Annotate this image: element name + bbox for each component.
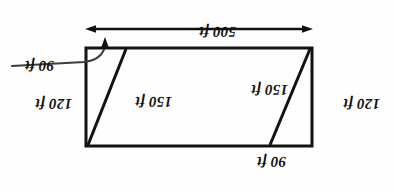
label-inner-150ft-left: 150 ft [251, 81, 288, 96]
label-left-120ft: 120 ft [343, 95, 380, 110]
geometry-figure: 90 ft 120 ft 150 ft 150 ft 120 ft 90 ft … [0, 0, 394, 192]
diagonal-right-line [88, 49, 126, 145]
leader-arrowhead [101, 37, 110, 49]
label-bottom-500ft: 500 ft [199, 23, 236, 38]
dimension-arrowhead-right [85, 25, 96, 33]
dimension-arrowhead-left [302, 25, 313, 33]
label-inner-150ft-right: 150 ft [135, 93, 172, 108]
label-top-90ft: 90 ft [257, 153, 286, 168]
label-right-120ft: 120 ft [35, 95, 72, 110]
rotated-figure-group: 90 ft 120 ft 150 ft 150 ft 120 ft 90 ft … [0, 0, 394, 192]
diagonal-left-line [270, 49, 310, 145]
label-lower-right-90ft: 90 ft [25, 57, 54, 72]
